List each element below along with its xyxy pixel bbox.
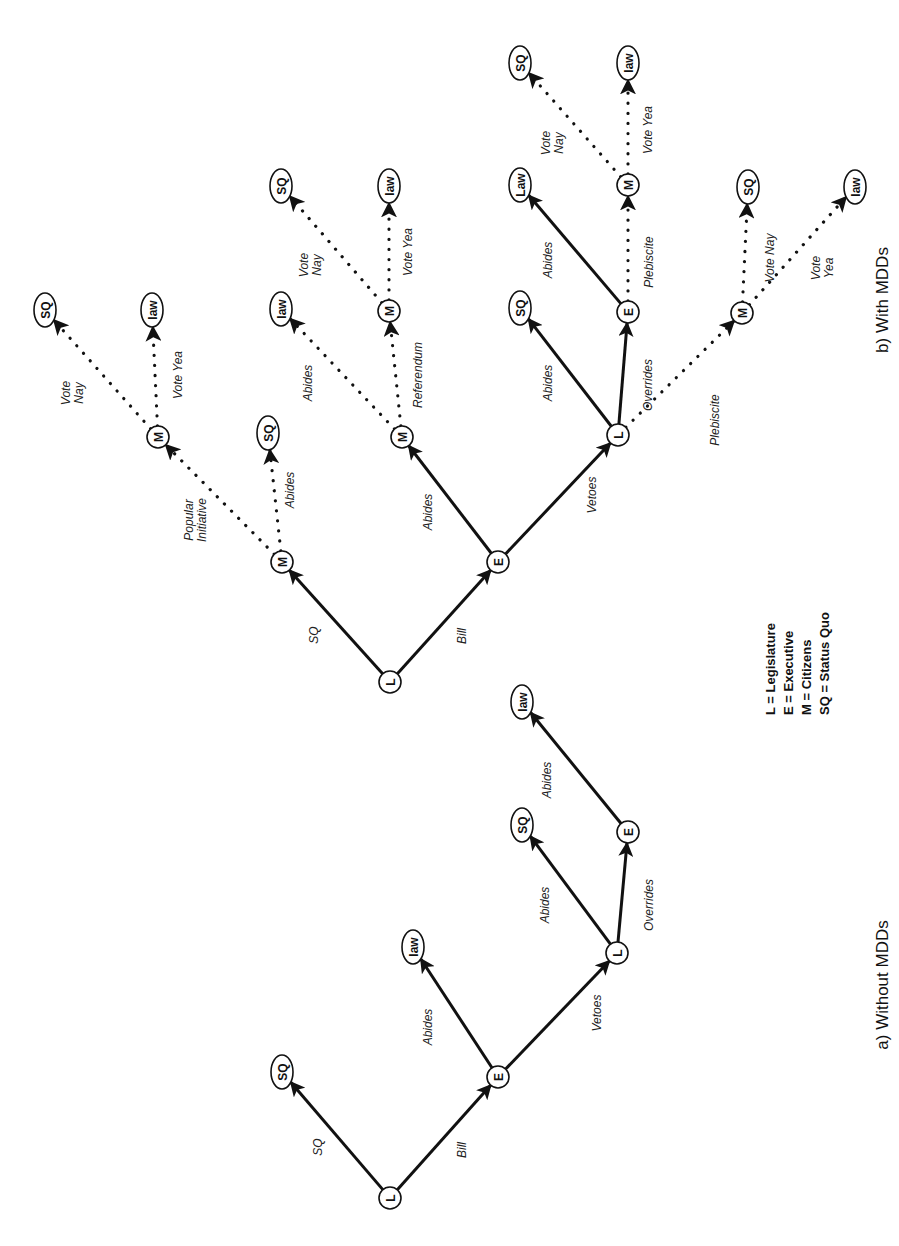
caption-with-mdds: b) With MDDs	[873, 247, 892, 353]
edge-label: Abides	[538, 887, 552, 925]
svg-text:E: E	[622, 828, 636, 836]
svg-text:Overrides: Overrides	[642, 879, 656, 931]
svg-text:Vote: Vote	[809, 256, 823, 281]
node-law: Law	[509, 168, 531, 202]
edge-label: VoteNay	[539, 131, 566, 156]
edge-label: Vetoes	[590, 995, 604, 1032]
edge-label: Abides	[541, 242, 555, 280]
caption-without-mdds: a) Without MDDs	[873, 920, 892, 1049]
node-m: M	[378, 300, 400, 322]
svg-text:Vote: Vote	[59, 381, 73, 406]
svg-text:SQ: SQ	[742, 178, 756, 195]
node-sq: SQ	[257, 416, 279, 450]
node-law: law	[617, 46, 639, 80]
svg-text:SQ: SQ	[275, 177, 289, 194]
node-law: law	[844, 170, 866, 204]
svg-text:Vote Yea: Vote Yea	[401, 228, 415, 276]
svg-text:Abides: Abides	[538, 887, 552, 925]
edge-label: PopularInitiative	[182, 498, 209, 542]
edge-label: Plebiscite	[708, 394, 722, 446]
edge-label: Vote Yea	[171, 351, 185, 399]
svg-text:Abides: Abides	[540, 762, 554, 800]
svg-text:Abides: Abides	[421, 1009, 435, 1047]
node-law: law	[511, 685, 533, 719]
svg-text:law: law	[407, 937, 421, 957]
node-sq: SQ	[737, 170, 759, 204]
edge-label: SQ	[311, 1138, 325, 1155]
svg-text:Nay: Nay	[310, 253, 324, 275]
edge-label: Overrides	[641, 359, 655, 411]
node-law: law	[270, 292, 292, 326]
node-l: L	[607, 424, 629, 446]
edge-label: Abides	[540, 762, 554, 800]
edge-label: Plebiscite	[642, 236, 656, 288]
svg-text:Initiative: Initiative	[195, 498, 209, 542]
edge-solid-b	[397, 570, 490, 674]
svg-text:law: law	[849, 177, 863, 197]
edge-label: Vote Yea	[401, 228, 415, 276]
edge-solid-a	[397, 1085, 490, 1190]
svg-text:SQ: SQ	[514, 299, 528, 316]
svg-text:M: M	[622, 180, 636, 190]
svg-text:M: M	[396, 432, 410, 442]
legend-item-l: L = Legislature	[763, 623, 778, 715]
legend-item-e: E = Executive	[781, 631, 796, 715]
svg-text:Overrides: Overrides	[641, 359, 655, 411]
edge-label: SQ	[307, 626, 321, 643]
svg-text:SQ: SQ	[307, 626, 321, 643]
edge-label: Abides	[541, 365, 555, 403]
svg-text:E: E	[492, 1073, 506, 1081]
svg-text:Bill: Bill	[455, 628, 469, 644]
svg-text:law: law	[275, 299, 289, 319]
svg-text:SQ: SQ	[262, 424, 276, 441]
node-m: M	[617, 174, 639, 196]
svg-text:SQ: SQ	[39, 301, 53, 318]
edge-label: Vetoes	[585, 477, 599, 514]
edge-solid-a	[291, 1082, 383, 1189]
legend-item-m: M = Citizens	[799, 640, 814, 716]
svg-text:law: law	[622, 53, 636, 73]
edge-label: VoteNay	[59, 381, 86, 406]
node-l: L	[379, 671, 401, 693]
svg-text:Plebiscite: Plebiscite	[708, 394, 722, 446]
node-m: M	[147, 426, 169, 448]
svg-text:SQ: SQ	[311, 1138, 325, 1155]
svg-text:E: E	[622, 308, 636, 316]
svg-text:Abides: Abides	[283, 472, 297, 510]
node-l: L	[379, 1187, 401, 1209]
svg-text:Abides: Abides	[421, 494, 435, 532]
edge-label: Bill	[455, 628, 469, 644]
svg-text:Law: Law	[514, 173, 528, 197]
node-e: E	[487, 551, 509, 573]
svg-text:M: M	[276, 557, 290, 567]
svg-text:Abides: Abides	[301, 365, 315, 403]
node-sq: SQ	[509, 291, 531, 325]
node-m: M	[271, 551, 293, 573]
node-law: law	[141, 293, 163, 327]
svg-text:law: law	[383, 176, 397, 196]
node-sq: SQ	[271, 1055, 293, 1089]
svg-text:SQ: SQ	[514, 54, 528, 71]
edges-layer	[54, 73, 846, 1190]
edge-dotted-b	[54, 320, 151, 429]
svg-text:Abides: Abides	[541, 242, 555, 280]
edge-solid-b	[289, 570, 382, 674]
svg-text:Vote Yea: Vote Yea	[641, 106, 655, 154]
legend: L = LegislatureE = ExecutiveM = Citizens…	[763, 612, 832, 715]
svg-text:Popular: Popular	[182, 498, 196, 540]
node-e: E	[617, 301, 639, 323]
edge-label: Referendum	[411, 342, 425, 408]
node-sq: SQ	[511, 808, 533, 842]
svg-text:Vote: Vote	[297, 253, 311, 278]
node-law: law	[378, 169, 400, 203]
svg-text:M: M	[736, 308, 750, 318]
node-e: E	[487, 1066, 509, 1088]
edge-label: VoteYea	[809, 256, 836, 281]
edge-solid-a	[618, 843, 627, 942]
svg-text:L: L	[612, 431, 626, 438]
svg-text:Vetoes: Vetoes	[585, 477, 599, 514]
svg-text:Nay: Nay	[72, 381, 86, 403]
edge-dotted-b	[290, 196, 382, 302]
svg-text:L: L	[384, 678, 398, 685]
edge-dotted-b	[390, 322, 401, 426]
